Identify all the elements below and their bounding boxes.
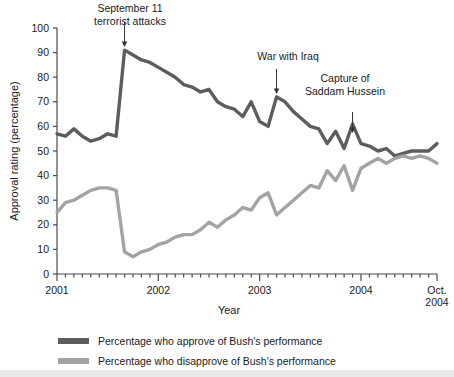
approval-rating-line-chart: 01020304050607080901002001200220032004Oc… [0, 0, 454, 377]
annotation-label-sept11: terrorist attacks [94, 15, 166, 27]
y-tick-label: 40 [37, 169, 49, 181]
annotation-label-iraq: War with Iraq [257, 50, 319, 62]
x-tick-label: 2003 [248, 284, 272, 296]
y-tick-label: 50 [37, 145, 49, 157]
x-axis-title: Year [218, 304, 241, 316]
legend-label-approve: Percentage who approve of Bush's perform… [98, 335, 322, 347]
x-tick-label: 2002 [147, 284, 171, 296]
chart-legend: Percentage who approve of Bush's perform… [58, 331, 438, 371]
legend-item-approve: Percentage who approve of Bush's perform… [58, 331, 438, 351]
chart-figure: 01020304050607080901002001200220032004Oc… [0, 0, 454, 377]
y-tick-label: 0 [43, 268, 49, 280]
x-tick-label-last-line2: 2004 [425, 296, 449, 308]
annotation-label-sept11: September 11 [97, 2, 162, 14]
y-tick-label: 10 [37, 243, 49, 255]
x-tick-label: 2004 [349, 284, 373, 296]
y-tick-label: 80 [37, 71, 49, 83]
y-tick-label: 60 [37, 120, 49, 132]
y-tick-label: 30 [37, 194, 49, 206]
annotation-label-saddam: Capture of [320, 72, 369, 84]
legend-label-disapprove: Percentage who disapprove of Bush's perf… [98, 355, 336, 367]
legend-item-disapprove: Percentage who disapprove of Bush's perf… [58, 351, 438, 371]
x-tick-label: 2001 [45, 284, 69, 296]
x-tick-label-last-line1: Oct. [427, 284, 446, 296]
y-tick-label: 70 [37, 95, 49, 107]
y-tick-label: 20 [37, 218, 49, 230]
chart-background [0, 0, 454, 377]
figure-bottom-rule [0, 370, 454, 377]
annotation-label-saddam: Saddam Hussein [305, 85, 385, 97]
legend-swatch-approve [58, 338, 89, 344]
y-axis-title: Approval rating (percentage) [8, 81, 20, 220]
y-tick-label: 90 [37, 46, 49, 58]
legend-swatch-disapprove [58, 358, 89, 364]
y-tick-label: 100 [31, 22, 49, 34]
